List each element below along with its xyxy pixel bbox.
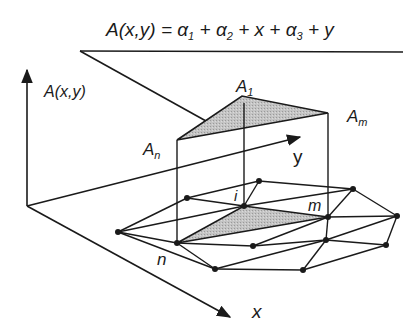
vertex-label-an: An — [142, 140, 160, 161]
node-label-m: m — [308, 197, 321, 214]
y-axis-label: y — [293, 146, 303, 167]
node-label-n: n — [157, 250, 166, 269]
diagram-svg: A(x,y) = α1 + α2 + x + α3 + y A(x,y) y x… — [0, 0, 420, 331]
formula: A(x,y) = α1 + α2 + x + α3 + y — [105, 19, 335, 42]
vertex-label-am: Am — [346, 107, 368, 128]
node-label-i: i — [234, 187, 238, 204]
formula-leader-line — [80, 51, 206, 121]
x-axis — [27, 206, 230, 317]
y-axis — [27, 137, 300, 206]
diagram-canvas: A(x,y) = α1 + α2 + x + α3 + y A(x,y) y x… — [0, 0, 420, 331]
x-axis-label: x — [251, 301, 263, 322]
formula-underline — [80, 51, 403, 52]
vertical-axis-label: A(x,y) — [43, 83, 86, 100]
mesh-triangle — [177, 206, 328, 243]
vertex-label-a1: A1 — [235, 77, 253, 98]
